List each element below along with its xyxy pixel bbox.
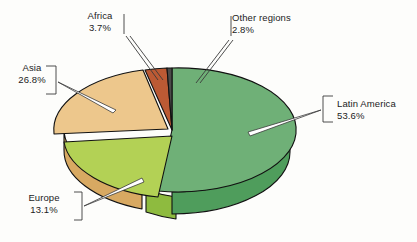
pie-label-africa-value: 3.7% xyxy=(78,22,122,34)
pie-label-latin-america-name: Latin America xyxy=(337,98,396,109)
pie-label-europe-value: 13.1% xyxy=(18,204,70,216)
pie-label-latin-america-value: 53.6% xyxy=(337,110,396,122)
pie-label-europe-name: Europe xyxy=(28,192,59,203)
leader-latin-bracket xyxy=(323,96,333,122)
pie-label-other-regions-value: 2.8% xyxy=(232,24,291,36)
pie-label-other-regions-name: Other regions xyxy=(232,12,291,23)
leader-europe-bracket xyxy=(74,192,82,220)
pie-label-asia-value: 26.8% xyxy=(8,74,56,86)
pie-label-asia: Asia 26.8% xyxy=(8,62,56,85)
pie-label-latin-america: Latin America 53.6% xyxy=(337,98,396,121)
pie-label-asia-name: Asia xyxy=(23,62,42,73)
pie-label-africa-name: Africa xyxy=(88,10,113,21)
slice-europe[interactable] xyxy=(64,136,172,197)
pie-label-africa: Africa 3.7% xyxy=(78,10,122,33)
pie-label-europe: Europe 13.1% xyxy=(18,192,70,215)
pie-label-other-regions: Other regions 2.8% xyxy=(232,12,291,35)
